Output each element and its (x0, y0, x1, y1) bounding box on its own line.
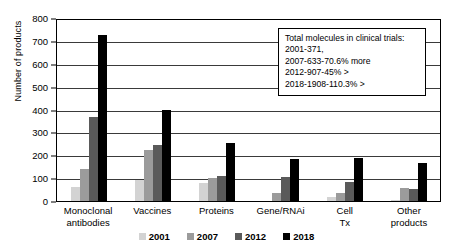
legend-item-2001[interactable]: 2001 (139, 232, 170, 242)
annotation-line: 2012-907-45% > (285, 67, 420, 78)
annotation-line: 2001-371, (285, 44, 420, 55)
y-axis-tick-label: 800 (32, 14, 48, 24)
y-axis-tick-label: 600 (32, 60, 48, 70)
x-axis-label-line: Cell (313, 205, 377, 217)
legend-swatch-icon (187, 233, 194, 240)
bar-2007 (272, 193, 281, 201)
bar-2001 (327, 197, 336, 201)
bar-2001 (135, 180, 144, 201)
annotation-line: Total molecules in clinical trials: (285, 33, 420, 44)
x-axis-label: CellTx (313, 205, 377, 228)
x-axis-label-line: Monoclonal (56, 205, 120, 217)
x-axis-category-labels: MonoclonalantibodiesVaccinesProteinsGene… (56, 205, 441, 228)
bar-group (121, 19, 185, 201)
y-axis-tick-label: 400 (32, 106, 48, 116)
y-axis-tick-labels: 8007006005004003002001000 (0, 0, 56, 202)
bar-chart: Number of products 800700600500400300200… (0, 0, 453, 252)
legend-label: 2007 (197, 232, 218, 242)
bar-2007 (144, 150, 153, 201)
legend-item-2007[interactable]: 2007 (187, 232, 218, 242)
x-axis-label: Monoclonalantibodies (56, 205, 120, 228)
y-axis-tick-label: 0 (43, 197, 48, 207)
annotation-textbox: Total molecules in clinical trials:2001-… (278, 28, 426, 96)
bar-2007 (400, 188, 409, 201)
y-axis-tick-label: 300 (32, 129, 48, 139)
bar-2012 (281, 177, 290, 201)
legend-swatch-icon (139, 233, 146, 240)
x-axis-label: Otherproducts (377, 205, 441, 228)
bar-2012 (217, 176, 226, 201)
bar-2001 (199, 183, 208, 201)
x-axis-label-line: Vaccines (120, 205, 184, 217)
y-axis-tick-label: 700 (32, 37, 48, 47)
annotation-line: 2007-633-70.6% more (285, 56, 420, 67)
bar-2018 (226, 143, 235, 201)
x-axis-label: Gene/RNAi (249, 205, 313, 228)
x-axis-label: Vaccines (120, 205, 184, 228)
bar-2001 (71, 187, 80, 201)
x-axis-label-line: Other (377, 205, 441, 217)
legend-label: 2012 (245, 232, 266, 242)
bar-2007 (80, 169, 89, 201)
x-axis-label-line: antibodies (56, 217, 120, 229)
annotation-line: 2018-1908-110.3% > (285, 79, 420, 90)
bar-2012 (153, 145, 162, 201)
bar-2018 (354, 158, 363, 201)
bar-2018 (290, 159, 299, 201)
bar-2018 (418, 163, 427, 201)
legend: 2001200720122018 (0, 232, 453, 242)
x-axis-label: Proteins (184, 205, 248, 228)
x-axis-label-line: Proteins (184, 205, 248, 217)
bar-2012 (89, 117, 98, 201)
bar-group (185, 19, 249, 201)
bar-2012 (345, 182, 354, 201)
bar-2018 (98, 35, 107, 201)
x-axis-label-line: products (377, 217, 441, 229)
legend-swatch-icon (283, 233, 290, 240)
legend-swatch-icon (235, 233, 242, 240)
bar-2007 (208, 178, 217, 201)
bar-2001 (391, 200, 400, 201)
legend-label: 2018 (293, 232, 314, 242)
y-axis-tick-label: 200 (32, 152, 48, 162)
x-axis-label-line: Gene/RNAi (249, 205, 313, 217)
bar-2012 (409, 189, 418, 201)
bar-2007 (336, 193, 345, 201)
legend-item-2012[interactable]: 2012 (235, 232, 266, 242)
y-axis-tick-label: 500 (32, 83, 48, 93)
bar-2018 (162, 110, 171, 201)
bar-group (57, 19, 121, 201)
x-axis-label-line: Tx (313, 217, 377, 229)
legend-item-2018[interactable]: 2018 (283, 232, 314, 242)
legend-label: 2001 (149, 232, 170, 242)
y-axis-tick-label: 100 (32, 174, 48, 184)
